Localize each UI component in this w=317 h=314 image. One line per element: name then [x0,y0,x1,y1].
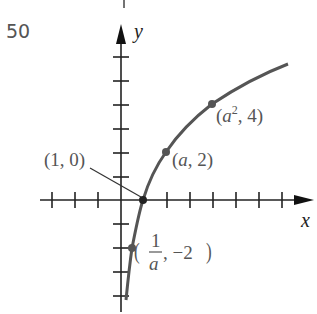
label-a2-4: (a2, 4) [216,103,263,127]
y-axis-label: y [132,20,143,43]
svg-text:(: ( [134,238,140,264]
svg-text:, −2: , −2 [163,242,193,263]
graph: y x (1, 0) (a, 2) (a2, 4) ( 1 a , −2 ) [0,0,317,314]
svg-text:a: a [149,253,159,274]
y-axis [113,24,129,312]
point-a2-4 [208,100,216,108]
point-a-2 [162,148,170,156]
x-axis-arrow-icon [294,195,314,205]
y-axis-arrow-icon [116,24,126,44]
label-1-0: (1, 0) [44,149,85,171]
x-axis [40,192,314,208]
svg-text:): ) [206,238,212,264]
label-1a-neg2: ( 1 a , −2 ) [134,230,212,274]
x-axis-label: x [300,209,310,231]
label-a-2: (a, 2) [172,149,213,171]
svg-text:1: 1 [151,230,161,251]
